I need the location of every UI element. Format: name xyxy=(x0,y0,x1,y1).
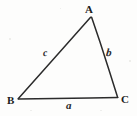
triangle-figure: A B C a b c xyxy=(0,0,137,116)
vertex-label-a: A xyxy=(85,4,93,15)
side-label-b: b xyxy=(105,47,112,59)
side-c-line xyxy=(18,17,90,99)
side-label-a: a xyxy=(66,100,72,111)
side-label-c: c xyxy=(42,48,47,58)
vertex-label-b: B xyxy=(7,95,14,106)
vertex-label-c: C xyxy=(121,94,129,105)
